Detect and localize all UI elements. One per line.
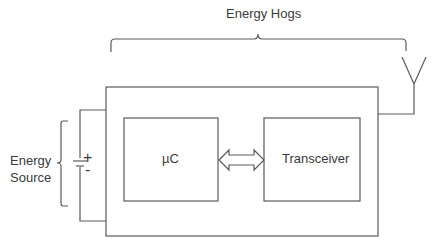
antenna-icon [378,57,426,114]
block-diagram [0,0,434,248]
energy-source-label-line2: Source [10,169,51,186]
battery-minus-sign: - [85,161,90,179]
energy-hogs-label: Energy Hogs [226,6,301,21]
energy-source-brace [57,121,68,206]
bidirectional-arrow-icon [219,150,264,170]
energy-source-label: Energy Source [10,152,51,186]
microcontroller-label: µC [162,151,179,166]
energy-hogs-brace [111,34,406,52]
energy-source-label-line1: Energy [10,152,51,169]
transceiver-label: Transceiver [282,151,349,166]
